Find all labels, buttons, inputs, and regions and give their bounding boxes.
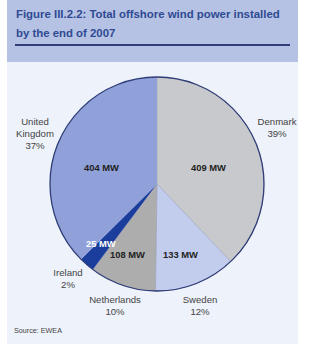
value-label-uk: 404 MW (84, 162, 119, 173)
value-label-denmark: 409 MW (191, 162, 226, 173)
label-denmark-pct: 39% (252, 128, 302, 140)
label-ireland-pct: 2% (48, 279, 88, 291)
label-uk-pct: 37% (10, 140, 60, 152)
label-uk-line1: United (10, 116, 60, 128)
label-sweden-name: Sweden (175, 294, 225, 306)
value-label-ireland: 25 MW (86, 238, 116, 249)
label-denmark-name: Denmark (252, 116, 302, 128)
label-uk-line2: Kingdom (10, 128, 60, 140)
label-uk: United Kingdom 37% (10, 116, 60, 152)
label-denmark: Denmark 39% (252, 116, 302, 140)
label-netherlands-name: Netherlands (82, 294, 148, 306)
source-note: Source: EWEA (14, 326, 62, 335)
value-label-netherlands: 108 MW (110, 249, 145, 260)
label-netherlands-pct: 10% (82, 306, 148, 318)
label-ireland: Ireland 2% (48, 267, 88, 291)
value-label-sweden: 133 MW (163, 249, 198, 260)
label-netherlands: Netherlands 10% (82, 294, 148, 318)
label-sweden-pct: 12% (175, 306, 225, 318)
label-ireland-name: Ireland (48, 267, 88, 279)
label-sweden: Sweden 12% (175, 294, 225, 318)
pie-chart (0, 0, 313, 344)
